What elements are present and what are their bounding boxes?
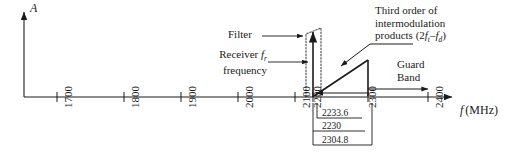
receiver-frequency-label: Receiver fr frequency <box>197 48 267 76</box>
guard-band-label: Guard Band <box>397 58 425 83</box>
dimension-2233-6: 2233.6 <box>322 108 348 119</box>
x-axis-label-unit: (MHz) <box>465 103 498 117</box>
tick-label-2400: 2400 <box>433 86 445 108</box>
dimension-2304-8: 2304.8 <box>322 135 348 146</box>
filter-label: Filter <box>228 28 252 41</box>
third-order-line1: Third order of <box>375 4 446 17</box>
tick-label-2300: 2300 <box>366 86 378 108</box>
receiver-word: Receiver <box>219 48 261 60</box>
third-order-line3: products (2ft–fd) <box>375 29 446 45</box>
tick-label-2000: 2000 <box>243 86 255 108</box>
tick-label-1800: 1800 <box>129 86 141 108</box>
receiver-frequency-line2: frequency <box>197 64 267 77</box>
tick-label-2200: 2200 <box>311 86 323 108</box>
third-order-line2: intermodulation <box>375 17 446 30</box>
tick-label-1900: 1900 <box>186 86 198 108</box>
tick-label-1700: 1700 <box>62 86 74 108</box>
x-axis-label: f(MHz) <box>460 104 498 118</box>
figure-canvas: A f(MHz) 1700 1800 1900 2000 2100 2200 2… <box>0 0 506 155</box>
third-order-prefix: products (2 <box>375 29 425 41</box>
y-axis-label: A <box>30 2 37 16</box>
guard-band-line1: Guard <box>397 58 425 71</box>
dimension-2230: 2230 <box>322 121 341 132</box>
receiver-frequency-line1: Receiver fr <box>197 48 267 64</box>
x-axis-label-symbol: f <box>460 103 463 117</box>
guard-band-line2: Band <box>397 71 425 84</box>
third-order-suffix: ) <box>442 29 446 41</box>
receiver-symbol-sub: r <box>264 54 267 63</box>
third-order-label: Third order of intermodulation products … <box>375 4 446 45</box>
